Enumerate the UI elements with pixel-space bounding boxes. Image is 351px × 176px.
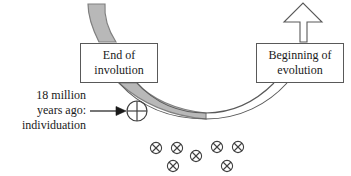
node-beginning-of-evolution-line1: Beginning of — [269, 48, 332, 63]
circle-with-cross-icon — [127, 101, 147, 121]
caption-line-1: 18 million — [4, 88, 86, 103]
circle-with-x-icon — [171, 142, 182, 153]
node-beginning-of-evolution-line2: evolution — [277, 63, 322, 78]
node-end-of-involution-line1: End of — [103, 48, 135, 63]
node-end-of-involution-line2: involution — [94, 63, 143, 78]
circle-with-x-icon — [211, 141, 222, 152]
scattered-circle-with-x-group — [150, 141, 243, 171]
involution-evolution-diagram: End of involution Beginning of evolution… — [0, 0, 351, 176]
circle-with-x-icon — [167, 160, 178, 171]
pointer-arrow-head — [116, 107, 126, 116]
caption-line-2: years ago: — [4, 103, 86, 118]
circle-with-x-icon — [190, 150, 201, 161]
circle-with-x-icon — [221, 160, 232, 171]
circle-with-x-icon — [150, 142, 161, 153]
caption-individuation: 18 million years ago: individuation — [4, 88, 86, 133]
hollow-up-arrow-icon — [284, 3, 322, 42]
involution-band-upper — [88, 4, 116, 42]
circle-with-x-icon — [232, 141, 243, 152]
node-end-of-involution: End of involution — [80, 43, 158, 83]
caption-line-3: individuation — [4, 118, 86, 133]
node-beginning-of-evolution: Beginning of evolution — [256, 43, 344, 83]
